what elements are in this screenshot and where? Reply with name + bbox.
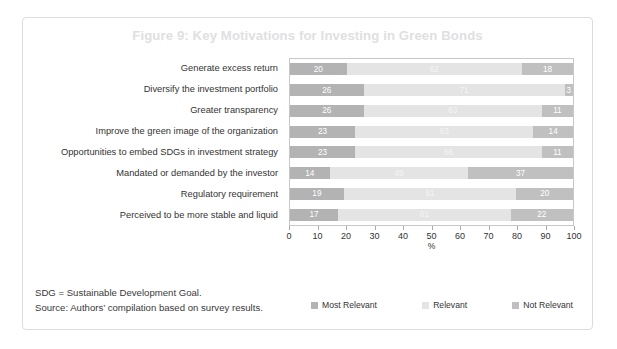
x-axis-tick-label: 70 (483, 231, 493, 241)
x-axis-tick-label: 0 (286, 231, 291, 241)
bar-value-label: 19 (312, 189, 321, 198)
category-axis-labels: Generate excess returnDiversify the inve… (31, 58, 284, 226)
bar-value-label: 62 (430, 65, 439, 74)
x-axis-tick (574, 226, 575, 230)
bar-value-label: 20 (540, 189, 549, 198)
category-label: Improve the green image of the organizat… (31, 121, 284, 142)
chart-area: Generate excess returnDiversify the inve… (23, 52, 592, 262)
stacked-bar: 206218 (290, 63, 573, 75)
bar-segment: 3 (565, 84, 573, 96)
bar-value-label: 37 (516, 169, 525, 178)
bar-value-label: 26 (322, 106, 331, 115)
bar-value-label: 18 (543, 65, 552, 74)
figure-card: Figure 9: Key Motivations for Investing … (22, 17, 593, 330)
bar-value-label: 61 (420, 210, 429, 219)
stacked-bar: 26713 (290, 84, 573, 96)
bar-value-label: 14 (305, 169, 314, 178)
bar-value-label: 14 (549, 127, 558, 136)
bar-segment: 11 (542, 146, 573, 158)
x-axis-tick-label: 30 (369, 231, 379, 241)
bar-row: 176122 (290, 204, 573, 225)
x-axis-tick-label: 20 (341, 231, 351, 241)
bar-row: 236611 (290, 142, 573, 163)
bar-segment: 63 (364, 105, 542, 117)
bar-segment: 23 (290, 146, 355, 158)
category-label: Diversify the investment portfolio (31, 79, 284, 100)
figure-notes: SDG = Sustainable Development Goal.Sourc… (35, 286, 575, 316)
bar-value-label: 11 (553, 106, 562, 115)
bar-segment: 62 (347, 63, 522, 75)
figure-note: SDG = Sustainable Development Goal. (35, 286, 575, 301)
bar-segment: 17 (290, 209, 338, 221)
x-axis-tick-label: 80 (512, 231, 522, 241)
bar-row: 206218 (290, 59, 573, 80)
bar-segment: 23 (290, 126, 355, 138)
bar-segment: 14 (290, 167, 330, 179)
bar-segment: 22 (511, 209, 573, 221)
x-axis-title: % (289, 241, 574, 251)
bar-value-label: 66 (444, 148, 453, 157)
stacked-bar: 266311 (290, 105, 573, 117)
bar-segment: 26 (290, 84, 364, 96)
bar-segment: 71 (364, 84, 565, 96)
x-axis-tick-label: 60 (455, 231, 465, 241)
x-axis: 0102030405060708090100 % (289, 226, 574, 256)
figure-title: Figure 9: Key Motivations for Investing … (23, 28, 592, 43)
x-axis-tick-label: 100 (566, 231, 581, 241)
bar-segment: 18 (522, 63, 573, 75)
category-label: Regulatory requirement (31, 184, 284, 205)
x-axis-tick-label: 40 (398, 231, 408, 241)
stacked-bar: 196120 (290, 188, 573, 200)
bar-value-label: 71 (459, 86, 468, 95)
bar-row: 144937 (290, 163, 573, 184)
bar-value-label: 17 (310, 210, 319, 219)
bar-value-label: 49 (394, 169, 403, 178)
bar-segment: 37 (468, 167, 573, 179)
stacked-bar: 176122 (290, 209, 573, 221)
bar-segment: 20 (290, 63, 347, 75)
bar-value-label: 22 (537, 210, 546, 219)
bar-value-label: 20 (314, 65, 323, 74)
category-label: Greater transparency (31, 100, 284, 121)
bar-value-label: 26 (322, 86, 331, 95)
bar-segment: 63 (355, 126, 533, 138)
category-label: Perceived to be more stable and liquid (31, 205, 284, 226)
bar-value-label: 23 (318, 127, 327, 136)
bar-segment: 61 (338, 209, 511, 221)
bar-segment: 19 (290, 188, 344, 200)
bar-row: 26713 (290, 80, 573, 101)
category-label: Generate excess return (31, 58, 284, 79)
stacked-bar: 236611 (290, 146, 573, 158)
bar-segment: 14 (533, 126, 573, 138)
bar-row: 236314 (290, 121, 573, 142)
bar-value-label: 61 (426, 189, 435, 198)
bar-segment: 61 (344, 188, 517, 200)
plot-area: 2062182671326631123631423661114493719612… (289, 58, 574, 226)
x-axis-tick-label: 50 (426, 231, 436, 241)
bar-value-label: 11 (553, 148, 562, 157)
x-axis-tick-label: 10 (312, 231, 322, 241)
bar-row: 196120 (290, 184, 573, 205)
bar-segment: 49 (330, 167, 469, 179)
bar-value-label: 63 (448, 106, 457, 115)
category-label: Mandated or demanded by the investor (31, 163, 284, 184)
bar-row: 266311 (290, 101, 573, 122)
bar-segment: 66 (355, 146, 542, 158)
bars-container: 2062182671326631123631423661114493719612… (290, 59, 573, 225)
bar-value-label: 63 (440, 127, 449, 136)
bar-value-label: 23 (318, 148, 327, 157)
stacked-bar: 144937 (290, 167, 573, 179)
bar-segment: 11 (542, 105, 573, 117)
figure-note: Source: Authors’ compilation based on su… (35, 301, 575, 316)
bar-segment: 20 (516, 188, 573, 200)
bar-value-label: 3 (566, 86, 571, 95)
x-axis-tick-label: 90 (540, 231, 550, 241)
stacked-bar: 236314 (290, 126, 573, 138)
category-label: Opportunities to embed SDGs in investmen… (31, 142, 284, 163)
bar-segment: 26 (290, 105, 364, 117)
